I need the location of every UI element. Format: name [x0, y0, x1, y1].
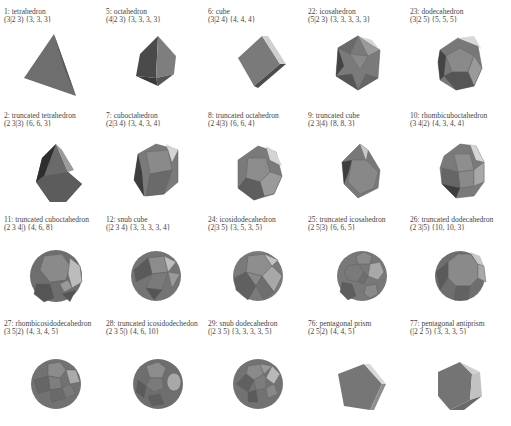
polyhedron-symbol: (3|2 4) {4, 4, 4} — [208, 16, 310, 24]
polyhedron-symbol: (3|2 3) {3, 3, 3} — [4, 16, 106, 24]
polyhedron-symbol: (3 4|2) {4, 3, 4, 4} — [410, 120, 511, 128]
polyhedron-symbol: (|2 3 5) {3, 3, 3, 3, 5} — [208, 328, 310, 336]
cuboctahedron-image — [106, 132, 208, 214]
cell-label: 11: truncated cuboctahedron (2 3 4|) {4,… — [4, 216, 106, 232]
cell-tetrahedron: 1: tetrahedron (3|2 3) {3, 3, 3} — [4, 8, 106, 112]
cell-label: 12: snub cube (|2 3 4) {3, 3, 3, 3, 4} — [106, 216, 208, 232]
polyhedron-symbol: (3|2 5) {5, 5, 5} — [410, 16, 511, 24]
polyhedron-symbol: (2 4|3) {6, 6, 4} — [208, 120, 310, 128]
icosahedron-image — [308, 28, 410, 110]
cell-dodecahedron: 23: dodecahedron (3|2 5) {5, 5, 5} — [410, 8, 511, 112]
polyhedron-symbol: (3 5|2) {4, 3, 4, 5} — [4, 328, 106, 336]
polyhedron-symbol: (2 3 5|) {4, 6, 10} — [106, 328, 208, 336]
polyhedron-symbol: (2|3 5) {3, 5, 3, 5} — [208, 224, 310, 232]
cell-label: 1: tetrahedron (3|2 3) {3, 3, 3} — [4, 8, 106, 24]
cell-label: 29: snub dodecahedron (|2 3 5) {3, 3, 3,… — [208, 320, 310, 336]
cell-label: 25: truncated icosahedron (2 5|3) {6, 6,… — [308, 216, 410, 232]
rhombicuboctahedron-image — [410, 132, 511, 214]
cell-truncated-cuboctahedron: 11: truncated cuboctahedron (2 3 4|) {4,… — [4, 216, 106, 320]
cell-label: 23: dodecahedron (3|2 5) {5, 5, 5} — [410, 8, 511, 24]
cell-label: 10: rhombicuboctahedron (3 4|2) {4, 3, 4… — [410, 112, 511, 128]
truncated-cube-image — [308, 132, 410, 214]
truncated-octahedron-image — [208, 132, 310, 214]
polyhedra-grid: 1: tetrahedron (3|2 3) {3, 3, 3} 5: octa… — [0, 0, 511, 426]
cell-label: 8: truncated octahedron (2 4|3) {6, 6, 4… — [208, 112, 310, 128]
cell-rhombicosidodecahedron: 27: rhombicosidodecahedron (3 5|2) {4, 3… — [4, 320, 106, 424]
snub-cube-image — [106, 236, 208, 318]
polyhedron-symbol: (2 5|3) {6, 6, 5} — [308, 224, 410, 232]
cell-label: 28: truncated icosidodechedon (2 3 5|) {… — [106, 320, 208, 336]
polyhedron-symbol: (|2 2 5) {3, 3, 3, 5} — [410, 328, 511, 336]
polyhedron-symbol: (2 3|5) {10, 10, 3} — [410, 224, 511, 232]
polyhedron-symbol: (2 3 4|) {4, 6, 8} — [4, 224, 106, 232]
icosidodecahedron-image — [208, 236, 310, 318]
cell-rhombicuboctahedron: 10: rhombicuboctahedron (3 4|2) {4, 3, 4… — [410, 112, 511, 216]
pentagonal-prism-image — [308, 340, 410, 422]
cell-label: 7: cuboctahedron (2|3 4) {3, 4, 3, 4} — [106, 112, 208, 128]
dodecahedron-image — [410, 28, 511, 110]
cell-label: 27: rhombicosidodecahedron (3 5|2) {4, 3… — [4, 320, 106, 336]
cell-pentagonal-prism: 76: pentagonal prism (2 5|2) {4, 4, 5} — [308, 320, 410, 424]
octahedron-image — [106, 28, 208, 110]
cell-truncated-cube: 9: truncated cube (2 3|4) {8, 8, 3} — [308, 112, 410, 216]
truncated-cuboctahedron-image — [4, 236, 106, 318]
polyhedron-symbol: (5|2 3) {3, 3, 3, 3, 3} — [308, 16, 410, 24]
pentagonal-antiprism-image — [410, 340, 511, 422]
polyhedron-symbol: (2 3|4) {8, 8, 3} — [308, 120, 410, 128]
truncated-icosahedron-image — [308, 236, 410, 318]
cell-label: 22: icosahedron (5|2 3) {3, 3, 3, 3, 3} — [308, 8, 410, 24]
cell-snub-cube: 12: snub cube (|2 3 4) {3, 3, 3, 3, 4} — [106, 216, 208, 320]
cell-label: 2: truncated tetrahedron (2 3|3) {6, 6, … — [4, 112, 106, 128]
polyhedron-symbol: (2 5|2) {4, 4, 5} — [308, 328, 410, 336]
cell-truncated-dodecahedron: 26: truncated dodecahedron (2 3|5) {10, … — [410, 216, 511, 320]
cell-label: 24: icosidodecahedron (2|3 5) {3, 5, 3, … — [208, 216, 310, 232]
snub-dodecahedron-image — [208, 340, 310, 422]
rhombicosidodecahedron-image — [4, 340, 106, 422]
cell-octahedron: 5: octahedron (4|2 3) {3, 3, 3, 3} — [106, 8, 208, 112]
cell-icosahedron: 22: icosahedron (5|2 3) {3, 3, 3, 3, 3} — [308, 8, 410, 112]
cell-cube: 6: cube (3|2 4) {4, 4, 4} — [208, 8, 310, 112]
cell-label: 5: octahedron (4|2 3) {3, 3, 3, 3} — [106, 8, 208, 24]
cell-truncated-icosahedron: 25: truncated icosahedron (2 5|3) {6, 6,… — [308, 216, 410, 320]
cell-label: 77: pentagonal antiprism (|2 2 5) {3, 3,… — [410, 320, 511, 336]
cell-icosidodecahedron: 24: icosidodecahedron (2|3 5) {3, 5, 3, … — [208, 216, 310, 320]
truncated-icosidodecahedron-image — [106, 340, 208, 422]
cell-snub-dodecahedron: 29: snub dodecahedron (|2 3 5) {3, 3, 3,… — [208, 320, 310, 424]
cell-truncated-octahedron: 8: truncated octahedron (2 4|3) {6, 6, 4… — [208, 112, 310, 216]
cell-pentagonal-antiprism: 77: pentagonal antiprism (|2 2 5) {3, 3,… — [410, 320, 511, 424]
cell-truncated-icosidodecahedron: 28: truncated icosidodechedon (2 3 5|) {… — [106, 320, 208, 424]
tetrahedron-image — [4, 28, 106, 110]
cell-label: 76: pentagonal prism (2 5|2) {4, 4, 5} — [308, 320, 410, 336]
cell-label: 26: truncated dodecahedron (2 3|5) {10, … — [410, 216, 511, 232]
cell-truncated-tetrahedron: 2: truncated tetrahedron (2 3|3) {6, 6, … — [4, 112, 106, 216]
polyhedron-symbol: (4|2 3) {3, 3, 3, 3} — [106, 16, 208, 24]
polyhedron-symbol: (2 3|3) {6, 6, 3} — [4, 120, 106, 128]
cell-label: 6: cube (3|2 4) {4, 4, 4} — [208, 8, 310, 24]
polyhedron-symbol: (2|3 4) {3, 4, 3, 4} — [106, 120, 208, 128]
cell-cuboctahedron: 7: cuboctahedron (2|3 4) {3, 4, 3, 4} — [106, 112, 208, 216]
truncated-dodecahedron-image — [410, 236, 511, 318]
truncated-tetrahedron-image — [4, 132, 106, 214]
cell-label: 9: truncated cube (2 3|4) {8, 8, 3} — [308, 112, 410, 128]
polyhedron-symbol: (|2 3 4) {3, 3, 3, 3, 4} — [106, 224, 208, 232]
cube-image — [208, 28, 310, 110]
